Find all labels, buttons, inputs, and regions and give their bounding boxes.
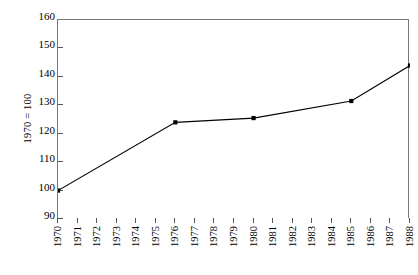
data-point-1976 (173, 120, 177, 124)
data-line (58, 65, 410, 190)
y-tick-label: 160 (39, 11, 56, 22)
x-tick-label: 1980 (247, 226, 258, 247)
x-tick-label: 1985 (345, 226, 356, 247)
x-tick-label: 1976 (169, 226, 180, 247)
data-point-1988 (408, 63, 410, 67)
x-tick-mark (96, 218, 97, 223)
x-tick-mark (370, 218, 371, 223)
x-tick-label: 1970 (52, 226, 63, 247)
y-tick-140: 140 (0, 76, 63, 77)
x-tick-label: 1979 (228, 226, 239, 247)
x-tick-label: 1972 (91, 226, 102, 247)
y-axis-title: 1970 = 100 (18, 19, 36, 218)
y-tick-130: 130 (0, 104, 63, 105)
x-tick-mark (174, 218, 175, 223)
x-tick-mark (194, 218, 195, 223)
x-tick-label: 1982 (286, 226, 297, 247)
data-point-1985 (349, 99, 353, 103)
y-tick-label: 100 (39, 182, 56, 193)
x-tick-mark (116, 218, 117, 223)
x-tick-label: 1974 (130, 226, 141, 247)
x-tick-mark (409, 218, 410, 223)
y-tick-label: 130 (39, 96, 56, 107)
x-tick-label: 1981 (267, 226, 278, 247)
x-tick-mark (272, 218, 273, 223)
x-tick-label: 1983 (306, 226, 317, 247)
data-markers (58, 63, 410, 192)
x-tick-label: 1987 (384, 226, 395, 247)
plot-area (57, 19, 409, 218)
x-tick-mark (233, 218, 234, 223)
y-tick-label: 110 (39, 153, 55, 164)
y-tick-160: 160 (0, 19, 63, 20)
data-point-1980 (251, 116, 255, 120)
x-tick-mark (331, 218, 332, 223)
x-tick-mark (389, 218, 390, 223)
x-tick-label: 1988 (404, 226, 415, 247)
y-tick-110: 110 (0, 161, 63, 162)
x-tick-label: 1977 (188, 226, 199, 247)
y-tick-150: 150 (0, 47, 63, 48)
x-tick-label: 1975 (149, 226, 160, 247)
line-series-svg (58, 20, 410, 219)
x-tick-mark (77, 218, 78, 223)
x-tick-label: 1971 (71, 226, 82, 247)
x-tick-label: 1984 (325, 226, 336, 247)
x-tick-mark (155, 218, 156, 223)
x-tick-label: 1973 (110, 226, 121, 247)
y-tick-label: 90 (44, 210, 55, 221)
x-tick-mark (311, 218, 312, 223)
data-point-1970 (58, 188, 60, 192)
y-tick-100: 100 (0, 190, 63, 191)
y-tick-label: 150 (39, 39, 56, 50)
y-tick-120: 120 (0, 133, 63, 134)
y-tick-label: 140 (39, 68, 56, 79)
x-tick-mark (57, 218, 58, 223)
x-tick-mark (292, 218, 293, 223)
x-tick-label: 1978 (208, 226, 219, 247)
x-tick-label: 1986 (364, 226, 375, 247)
x-tick-mark (253, 218, 254, 223)
chart-figure: 1970 = 100 16015014013012011010090 19701… (0, 0, 418, 275)
x-tick-mark (213, 218, 214, 223)
x-tick-mark (135, 218, 136, 223)
x-tick-mark (350, 218, 351, 223)
y-tick-label: 120 (39, 125, 56, 136)
y-tick-90: 90 (0, 218, 63, 219)
